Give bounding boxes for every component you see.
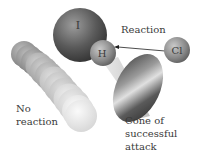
- chlorine-symbol: Cl: [172, 45, 183, 56]
- chlorine-atom: Cl: [164, 37, 190, 63]
- iodine-symbol: I: [76, 19, 80, 32]
- cone-label-line2: successful: [125, 128, 177, 139]
- reaction-arrow: [114, 45, 165, 51]
- collision-diagram: I H Cl Reaction No reaction Cone of succ…: [0, 0, 200, 159]
- hydrogen-atom: H: [90, 40, 116, 66]
- cone-label-line3: attack: [125, 141, 158, 152]
- hydrogen-symbol: H: [98, 48, 107, 59]
- reaction-label: Reaction: [121, 24, 166, 35]
- no-reaction-label-line2: reaction: [16, 116, 58, 127]
- cone-label-line1: Cone of: [125, 115, 165, 126]
- no-reaction-label-line1: No: [16, 103, 31, 114]
